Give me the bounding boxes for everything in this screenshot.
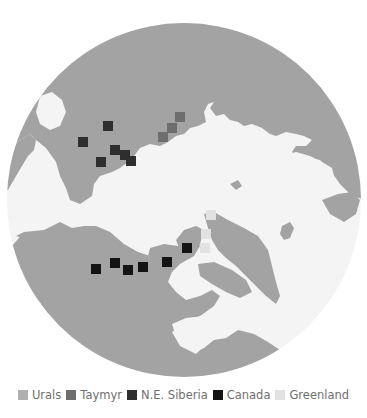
legend-label: N.E. Siberia: [141, 388, 208, 402]
marker-greenland: [201, 229, 211, 239]
marker-taymyr: [158, 132, 168, 142]
legend: Urals Taymyr N.E. Siberia Canada Greenla…: [0, 386, 367, 404]
legend-item-taymyr: Taymyr: [66, 388, 122, 402]
marker-greenland: [200, 243, 210, 253]
marker-greenland: [206, 210, 216, 220]
marker-n-e-siberia: [110, 145, 120, 155]
marker-canada: [138, 262, 148, 272]
legend-swatch-urals: [18, 390, 28, 400]
marker-canada: [123, 265, 133, 275]
legend-swatch-canada: [213, 390, 223, 400]
marker-n-e-siberia: [126, 156, 136, 166]
legend-swatch-greenland: [275, 390, 285, 400]
marker-canada: [91, 264, 101, 274]
legend-label: Urals: [32, 388, 61, 402]
marker-taymyr: [175, 112, 185, 122]
marker-n-e-siberia: [103, 121, 113, 131]
marker-taymyr: [167, 123, 177, 133]
legend-label: Greenland: [289, 388, 349, 402]
marker-n-e-siberia: [96, 157, 106, 167]
legend-swatch-taymyr: [66, 390, 76, 400]
legend-label: Taymyr: [80, 388, 122, 402]
arctic-map: [0, 0, 367, 380]
legend-item-canada: Canada: [213, 388, 271, 402]
legend-item-greenland: Greenland: [275, 388, 349, 402]
legend-label: Canada: [227, 388, 271, 402]
marker-canada: [110, 258, 120, 268]
marker-n-e-siberia: [78, 137, 88, 147]
marker-canada: [182, 243, 192, 253]
marker-canada: [162, 257, 172, 267]
legend-item-urals: Urals: [18, 388, 61, 402]
legend-item-ne-siberia: N.E. Siberia: [127, 388, 208, 402]
legend-swatch-ne-siberia: [127, 390, 137, 400]
